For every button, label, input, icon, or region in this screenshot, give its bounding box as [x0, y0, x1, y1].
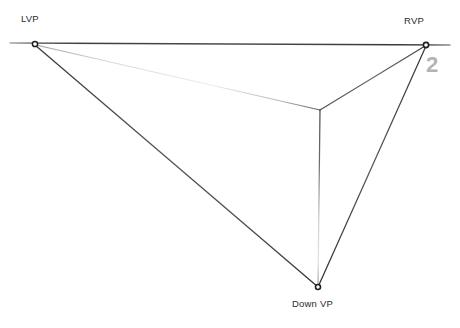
down-vp-label: Down VP	[292, 299, 333, 309]
lvp-point-marker	[32, 41, 37, 46]
rvp-label: RVP	[404, 16, 424, 26]
horizon-line	[10, 43, 450, 45]
triangle-edge-lvp-to-down-vp	[35, 45, 318, 287]
triangle-edge-rvp-to-down-vp	[318, 46, 426, 287]
rvp-point-marker	[423, 42, 428, 47]
vanishing-point-markers	[32, 41, 428, 289]
diagram-svg	[0, 0, 460, 328]
construction-line-center-to-rvp	[320, 46, 425, 110]
numeral-two-annotation: 2	[426, 54, 438, 76]
perspective-diagram-canvas: LVP RVP Down VP 2	[0, 0, 460, 328]
construction-line-center-to-lvp	[36, 45, 320, 110]
down-vp-point-marker	[316, 285, 321, 290]
lvp-label: LVP	[21, 14, 39, 24]
construction-line-center-to-down-vp	[318, 110, 320, 286]
